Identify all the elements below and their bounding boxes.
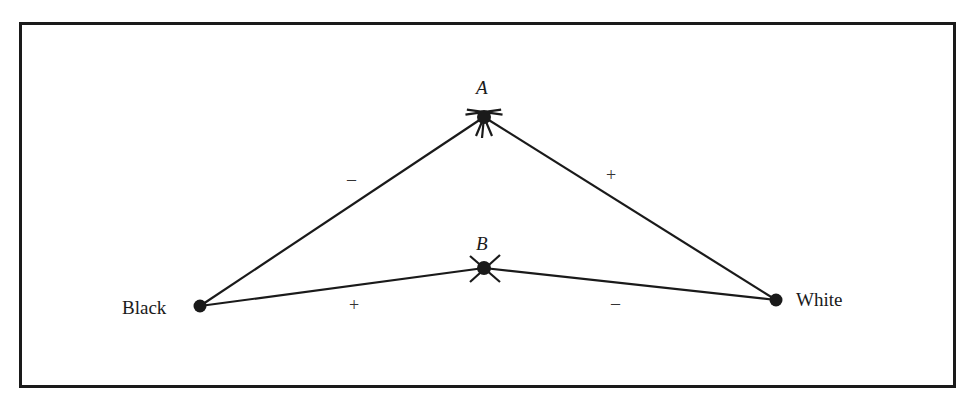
node-black-label: Black: [122, 298, 166, 317]
node-b-label: B: [476, 234, 488, 253]
node-a-label: A: [476, 78, 488, 97]
signed-graph: [0, 0, 973, 402]
edge-a-white-sign: +: [606, 166, 616, 184]
edge-black-a: [200, 117, 484, 306]
node-white-label: White: [796, 290, 842, 309]
node-white-dot: [770, 294, 783, 307]
edge-black-b-sign: +: [349, 296, 359, 314]
node-black-dot: [194, 300, 207, 313]
node-a-marker: [465, 110, 502, 138]
edge-black-b: [200, 268, 484, 306]
edge-black-a-sign: –: [347, 170, 356, 188]
edge-b-white-sign: –: [611, 294, 620, 312]
